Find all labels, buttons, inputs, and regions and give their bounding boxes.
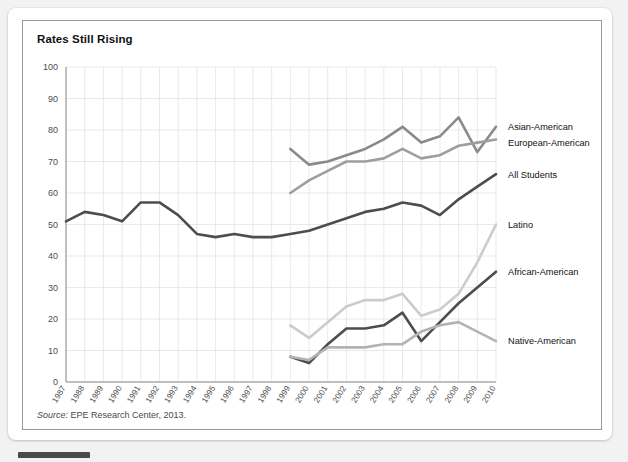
source-note: Source: EPE Research Center, 2013. xyxy=(37,410,186,420)
source-label: Source: xyxy=(37,410,68,420)
chart-card: Rates Still Rising Source: EPE Research … xyxy=(22,20,602,430)
bottom-accent-bar xyxy=(18,452,90,458)
page-title: Rates Still Rising xyxy=(37,33,133,45)
source-text: EPE Research Center, 2013. xyxy=(71,410,187,420)
